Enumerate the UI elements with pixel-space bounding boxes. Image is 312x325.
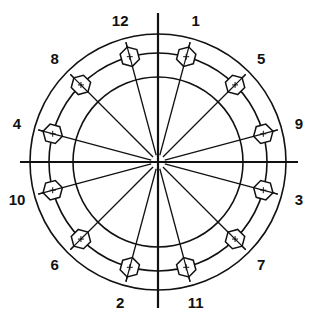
bolt-3	[254, 181, 278, 200]
bolt-6	[70, 229, 90, 249]
bolt-12	[120, 42, 139, 66]
bolt-7	[225, 229, 245, 249]
bolt-1	[177, 42, 196, 66]
bolt-11	[177, 258, 196, 282]
bolt-label-7: 7	[257, 256, 265, 273]
bolt-4	[38, 124, 62, 143]
bolt-label-2: 2	[116, 294, 124, 311]
flange-bolt-sequence-diagram: 159371126104812	[0, 0, 312, 325]
bolt-label-11: 11	[188, 294, 204, 311]
bolt-label-1: 1	[192, 12, 200, 29]
bolt-label-6: 6	[51, 256, 59, 273]
bolt-label-3: 3	[295, 191, 303, 208]
bolt-5	[225, 74, 245, 94]
bolt-label-4: 4	[13, 115, 22, 132]
bolt-label-12: 12	[112, 12, 129, 29]
bolt-label-10: 10	[9, 191, 26, 208]
bolt-10	[38, 181, 62, 200]
bolt-9	[254, 124, 278, 143]
bolt-label-8: 8	[51, 50, 59, 67]
bolt-label-9: 9	[295, 115, 303, 132]
bolt-2	[120, 258, 139, 282]
bolt-label-5: 5	[257, 50, 265, 67]
center-cross-icon	[152, 156, 164, 168]
bolt-8	[70, 74, 90, 94]
